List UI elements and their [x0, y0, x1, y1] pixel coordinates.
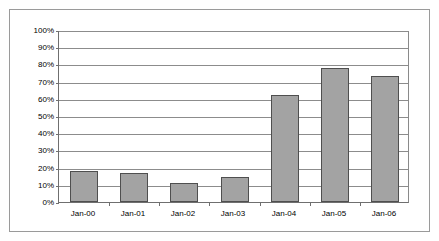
x-axis-tick-label: Jan-04: [259, 209, 309, 219]
chart-frame: 100%90%80%70%60%50%40%30%20%10%0% Jan-00…: [9, 9, 430, 232]
bar: [321, 68, 349, 202]
y-axis-tick-label: 90%: [14, 44, 54, 52]
bar: [271, 95, 299, 202]
y-axis-tick-label: 100%: [14, 27, 54, 35]
plot-area: [58, 31, 409, 203]
x-axis-tick: [159, 202, 160, 206]
y-axis-tick: [56, 134, 59, 135]
bar: [70, 171, 98, 202]
bar: [170, 183, 198, 202]
y-axis-tick: [56, 169, 59, 170]
y-axis-tick-label: 0%: [14, 199, 54, 207]
bar: [371, 76, 399, 202]
y-axis-tick: [56, 117, 59, 118]
y-axis-tick-label: 30%: [14, 147, 54, 155]
gridline: [59, 83, 408, 84]
gridline: [59, 134, 408, 135]
y-axis-tick: [56, 65, 59, 66]
x-axis-tick-label: Jan-06: [359, 209, 409, 219]
y-axis-tick: [56, 203, 59, 204]
bar: [221, 177, 249, 202]
x-axis-tick: [310, 202, 311, 206]
y-axis-tick-label: 10%: [14, 182, 54, 190]
y-axis-tick-label: 80%: [14, 61, 54, 69]
y-axis-tick-label: 60%: [14, 96, 54, 104]
x-axis-tick-labels: Jan-00Jan-01Jan-02Jan-03Jan-04Jan-05Jan-…: [58, 209, 409, 225]
x-axis-tick: [109, 202, 110, 206]
bar: [120, 173, 148, 202]
y-axis-tick-label: 20%: [14, 165, 54, 173]
y-axis-tick-labels: 100%90%80%70%60%50%40%30%20%10%0%: [10, 31, 54, 203]
y-axis-tick: [56, 31, 59, 32]
x-axis-tick-label: Jan-01: [108, 209, 158, 219]
y-axis-tick-label: 70%: [14, 79, 54, 87]
gridline: [59, 65, 408, 66]
x-axis-tick-label: Jan-02: [158, 209, 208, 219]
y-axis-tick-label: 50%: [14, 113, 54, 121]
x-axis-tick-label: Jan-05: [309, 209, 359, 219]
x-axis-tick-label: Jan-03: [208, 209, 258, 219]
gridline: [59, 169, 408, 170]
y-axis-tick: [56, 151, 59, 152]
y-axis-tick-label: 40%: [14, 130, 54, 138]
x-axis-tick: [260, 202, 261, 206]
gridline: [59, 151, 408, 152]
gridline: [59, 48, 408, 49]
x-axis-tick: [209, 202, 210, 206]
gridline: [59, 117, 408, 118]
y-axis-tick: [56, 83, 59, 84]
y-axis-tick: [56, 186, 59, 187]
gridline: [59, 100, 408, 101]
y-axis-tick: [56, 48, 59, 49]
x-axis-tick: [360, 202, 361, 206]
y-axis-tick: [56, 100, 59, 101]
gridline: [59, 31, 408, 32]
x-axis-tick-label: Jan-00: [58, 209, 108, 219]
